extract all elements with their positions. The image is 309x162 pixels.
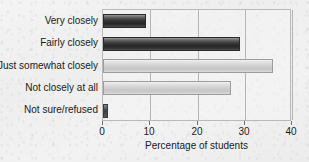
x-tick-30	[244, 121, 245, 125]
x-tick-label-40: 40	[285, 126, 296, 137]
x-tick-10	[149, 121, 150, 125]
category-label-0: Very closely	[0, 15, 98, 26]
x-tick-label-30: 30	[238, 126, 249, 137]
category-label-3: Not closely at all	[0, 82, 98, 93]
bar-4	[103, 104, 108, 118]
x-tick-label-0: 0	[99, 126, 105, 137]
category-label-2: Just somewhat closely	[0, 60, 98, 71]
gridline-40	[292, 10, 293, 120]
x-tick-40	[291, 121, 292, 125]
category-label-column: Very closelyFairly closelyJust somewhat …	[0, 9, 98, 121]
category-label-1: Fairly closely	[0, 37, 98, 48]
bar-2	[103, 59, 273, 73]
x-tick-0	[102, 121, 103, 125]
x-tick-20	[197, 121, 198, 125]
x-axis-title: Percentage of students	[102, 140, 291, 151]
bar-chart-figure: Very closelyFairly closelyJust somewhat …	[0, 0, 309, 162]
plot-area	[102, 9, 291, 121]
bar-3	[103, 81, 231, 95]
x-tick-label-20: 20	[191, 126, 202, 137]
x-tick-label-10: 10	[143, 126, 154, 137]
category-label-4: Not sure/refused	[0, 104, 98, 115]
bar-0	[103, 14, 146, 28]
bar-1	[103, 37, 240, 51]
